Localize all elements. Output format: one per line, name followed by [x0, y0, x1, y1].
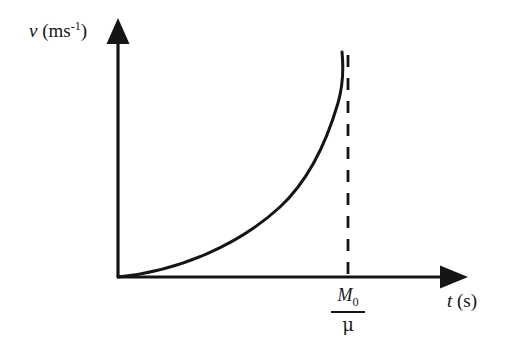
velocity-curve [118, 52, 343, 277]
y-axis-label-units: (ms [37, 20, 70, 41]
fraction-numerator-symbol: M [337, 285, 352, 305]
x-axis-arrowhead-icon [440, 266, 468, 289]
x-axis-tick-label-fraction: M0 μ [314, 286, 382, 334]
velocity-time-graph-figure: v (ms-1) t (s) M0 μ [0, 0, 516, 360]
y-axis-label: v (ms-1) [29, 20, 87, 40]
x-axis-label: t (s) [447, 291, 477, 310]
x-axis-label-units: (s) [452, 290, 477, 311]
fraction-numerator-subscript: 0 [352, 295, 358, 309]
y-axis-label-units-close: ) [81, 20, 87, 41]
y-axis-arrowhead-icon [107, 18, 130, 44]
fraction-divider-bar [331, 311, 365, 313]
fraction-denominator: μ [314, 316, 382, 334]
fraction-numerator: M0 [314, 286, 382, 309]
plot-canvas [0, 0, 516, 360]
y-axis-label-exponent: -1 [71, 19, 81, 33]
